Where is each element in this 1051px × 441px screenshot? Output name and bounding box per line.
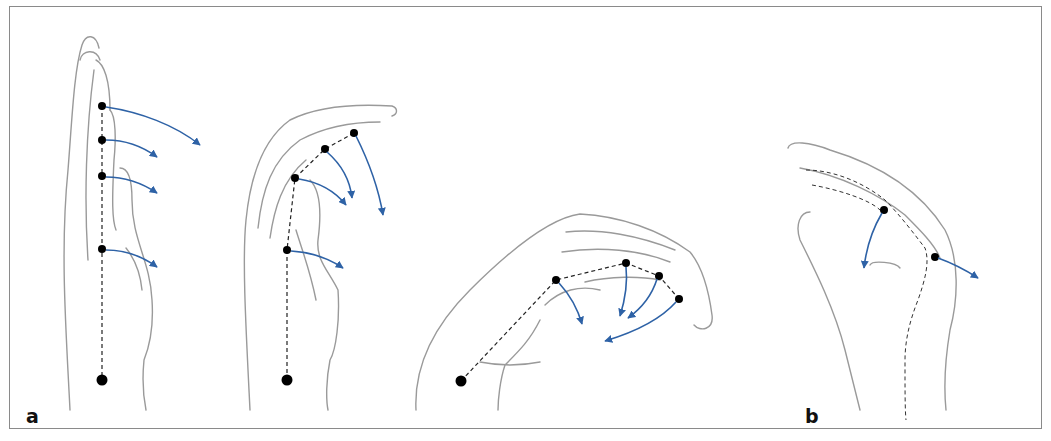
panel-label-a: a: [26, 405, 39, 427]
thumb-diagram: [788, 143, 978, 420]
hand-diagram: [0, 0, 1051, 441]
hand-fully-flexed: [416, 214, 712, 410]
hand-partially-flexed: [244, 105, 396, 410]
hand-extended: [64, 37, 200, 410]
panel-label-b: b: [805, 405, 819, 427]
